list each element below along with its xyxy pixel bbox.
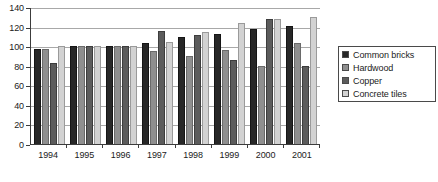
bar-hardwood-2000[interactable] — [258, 66, 265, 144]
bar-hardwood-1995[interactable] — [78, 46, 85, 144]
legend-item-label: Copper — [353, 76, 382, 86]
bar-group-2001 — [284, 8, 320, 144]
x-axis-tick-labels: 19941995199619971998199920002001 — [30, 150, 320, 160]
y-axis-tick-mark — [26, 67, 30, 68]
bar-concrete-tiles-2000[interactable] — [274, 19, 281, 144]
bar-group-1998 — [176, 8, 212, 144]
legend-swatch-icon — [342, 64, 349, 71]
bar-copper-1997[interactable] — [158, 31, 165, 145]
y-axis-tick-label: 140 — [0, 4, 24, 13]
x-axis-tick-label: 1999 — [211, 150, 247, 160]
bar-common-bricks-1999[interactable] — [214, 34, 221, 144]
legend-item-concrete-tiles[interactable]: Concrete tiles — [340, 87, 435, 100]
y-axis-tick-mark — [26, 125, 30, 126]
y-axis-tick-label: 20 — [0, 121, 24, 130]
bar-hardwood-1998[interactable] — [186, 56, 193, 144]
bar-concrete-tiles-1999[interactable] — [238, 23, 245, 144]
bar-concrete-tiles-2001[interactable] — [310, 17, 317, 144]
legend-item-label: Hardwood — [353, 63, 393, 73]
bar-concrete-tiles-1998[interactable] — [202, 32, 209, 144]
y-axis-tick-mark — [26, 28, 30, 29]
bar-copper-1996[interactable] — [122, 46, 129, 144]
legend-item-copper[interactable]: Copper — [340, 74, 435, 87]
x-axis-tick-label: 2000 — [248, 150, 284, 160]
bar-copper-1999[interactable] — [230, 60, 237, 144]
y-axis-tick-mark — [26, 47, 30, 48]
legend-item-hardwood[interactable]: Hardwood — [340, 61, 435, 74]
bar-hardwood-2001[interactable] — [294, 43, 301, 144]
bar-common-bricks-1996[interactable] — [106, 46, 113, 144]
bar-copper-2000[interactable] — [266, 19, 273, 144]
bar-hardwood-1994[interactable] — [42, 49, 49, 144]
x-axis-tick-label: 1998 — [175, 150, 211, 160]
y-axis-tick-label: 80 — [0, 62, 24, 71]
y-axis-tick-label: 60 — [0, 82, 24, 91]
bar-common-bricks-2001[interactable] — [286, 26, 293, 144]
bar-groups — [31, 8, 320, 144]
legend-swatch-icon — [342, 90, 349, 97]
bar-copper-2001[interactable] — [302, 66, 309, 144]
bar-concrete-tiles-1995[interactable] — [94, 46, 101, 144]
bar-copper-1994[interactable] — [50, 63, 57, 144]
legend-item-label: Concrete tiles — [353, 89, 407, 99]
y-axis-tick-label: 100 — [0, 43, 24, 52]
figure-caption — [2, 174, 332, 182]
x-axis-tick-label: 1995 — [66, 150, 102, 160]
bar-hardwood-1997[interactable] — [150, 51, 157, 144]
bar-concrete-tiles-1997[interactable] — [166, 42, 173, 144]
plot-wrapper: 020406080100120140 199419951996199719981… — [0, 0, 330, 165]
y-axis-tick-mark — [26, 8, 30, 9]
y-axis-tick-mark — [26, 145, 30, 146]
y-axis-tick-label: 120 — [0, 23, 24, 32]
legend-swatch-icon — [342, 77, 349, 84]
bar-hardwood-1996[interactable] — [114, 46, 121, 144]
bar-group-1995 — [67, 8, 103, 144]
y-axis-tick-label: 40 — [0, 101, 24, 110]
bar-common-bricks-1997[interactable] — [142, 43, 149, 144]
plot-area — [30, 8, 320, 145]
x-axis-tick-label: 2001 — [284, 150, 320, 160]
bar-group-1997 — [139, 8, 175, 144]
bar-group-1996 — [103, 8, 139, 144]
bar-common-bricks-1994[interactable] — [34, 49, 41, 144]
bar-concrete-tiles-1994[interactable] — [58, 46, 65, 144]
x-axis-tick-label: 1994 — [30, 150, 66, 160]
y-axis-tick-label: 0 — [0, 141, 24, 150]
bar-group-1994 — [31, 8, 67, 144]
bar-common-bricks-1998[interactable] — [178, 37, 185, 144]
legend-swatch-icon — [342, 51, 349, 58]
y-axis-tick-labels: 020406080100120140 — [0, 0, 24, 145]
x-axis-tick-label: 1997 — [139, 150, 175, 160]
bar-common-bricks-1995[interactable] — [70, 46, 77, 144]
bar-hardwood-1999[interactable] — [222, 50, 229, 144]
y-axis-tick-mark — [26, 86, 30, 87]
chart-legend: Common bricksHardwoodCopperConcrete tile… — [338, 46, 436, 102]
legend-item-common-bricks[interactable]: Common bricks — [340, 48, 435, 61]
bar-concrete-tiles-1996[interactable] — [130, 46, 137, 144]
y-axis-tick-mark — [26, 106, 30, 107]
bar-copper-1995[interactable] — [86, 46, 93, 144]
legend-item-label: Common bricks — [353, 50, 414, 60]
bar-copper-1998[interactable] — [194, 35, 201, 144]
bar-group-2000 — [248, 8, 284, 144]
x-axis-tick-label: 1996 — [103, 150, 139, 160]
bar-group-1999 — [212, 8, 248, 144]
bar-common-bricks-2000[interactable] — [250, 29, 257, 144]
bar-chart-figure: 020406080100120140 199419951996199719981… — [0, 0, 438, 182]
